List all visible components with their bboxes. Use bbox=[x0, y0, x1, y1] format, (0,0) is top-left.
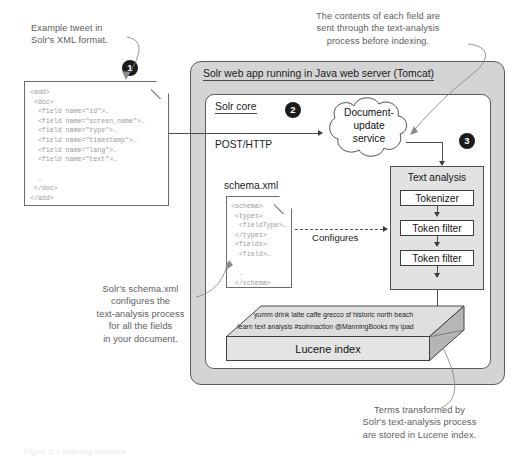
cloud-label-line-3: service bbox=[330, 132, 408, 145]
tweet-xml-code: <add> <doc> <field name="id">… <field na… bbox=[30, 88, 145, 203]
figure-caption: Figure 5.1 Indexing overview bbox=[24, 447, 126, 456]
text-analysis-title: Text analysis bbox=[390, 172, 484, 183]
cloud-label-line-1: Document- bbox=[330, 106, 408, 119]
lucene-index-label: Lucene index bbox=[226, 336, 430, 361]
step-badge-1: 1 bbox=[122, 60, 138, 76]
callout-field-contents-text: The contents of each field are sent thro… bbox=[316, 11, 440, 46]
document-update-service-cloud: Document- update service bbox=[330, 104, 408, 156]
configures-label: Configures bbox=[312, 232, 358, 243]
diagram-canvas: Example tweet in Solr's XML format. The … bbox=[0, 0, 513, 456]
connector-cloud-to-analysis-v bbox=[442, 142, 443, 163]
connector-schema-to-analysis bbox=[295, 229, 383, 230]
text-analysis-step-tokenizer: Tokenizer bbox=[400, 190, 474, 206]
connector-doc-to-cloud-arrow bbox=[318, 130, 323, 136]
text-analysis-step-token-filter-2: Token filter bbox=[400, 250, 474, 266]
connector-schema-to-analysis-arrow bbox=[383, 226, 388, 232]
schema-xml-code: <schema> <types> <fieldType>… </types> <… bbox=[231, 202, 286, 288]
connector-tokenizer-to-filter1-arrow bbox=[434, 212, 440, 217]
connector-filter1-to-filter2-arrow bbox=[434, 242, 440, 247]
connector-doc-to-cloud bbox=[169, 133, 319, 134]
callout-field-contents: The contents of each field are sent thro… bbox=[288, 10, 468, 47]
callout-terms-note: Terms transformed by Solr's text-analysi… bbox=[337, 404, 502, 441]
page-fold-line-icon bbox=[151, 81, 169, 99]
connector-filter2-to-exit-arrow bbox=[434, 273, 440, 278]
step-badge-2: 2 bbox=[285, 102, 301, 118]
schema-xml-title: schema.xml bbox=[224, 180, 278, 191]
schema-xml-document: <schema> <types> <fieldType>… </types> <… bbox=[226, 196, 292, 288]
lucene-terms-line-1: yumm drink latte caffe grecco sf histori… bbox=[226, 310, 441, 320]
callout-terms-note-text: Terms transformed by Solr's text-analysi… bbox=[363, 405, 477, 440]
text-analysis-step-token-filter-1: Token filter bbox=[400, 220, 474, 236]
solr-core-title: Solr core bbox=[215, 101, 257, 114]
callout-schema-note-text: Solr's schema.xml configures the text-an… bbox=[97, 284, 185, 344]
post-http-label: POST/HTTP bbox=[215, 139, 272, 150]
tomcat-container-title: Solr web app running in Java web server … bbox=[203, 68, 434, 81]
callout-tweet-example-text: Example tweet in Solr's XML format. bbox=[31, 23, 108, 45]
lucene-terms-line-2: learn text analysis #solrinaction @Manni… bbox=[218, 322, 433, 332]
cloud-label-line-2: update bbox=[330, 119, 408, 132]
connector-cloud-to-analysis-h bbox=[406, 142, 443, 143]
callout-tweet-example: Example tweet in Solr's XML format. bbox=[31, 22, 161, 47]
callout-schema-note: Solr's schema.xml configures the text-an… bbox=[78, 283, 203, 345]
step-badge-3: 3 bbox=[459, 133, 475, 149]
tweet-xml-document: <add> <doc> <field name="id">… <field na… bbox=[24, 81, 169, 206]
